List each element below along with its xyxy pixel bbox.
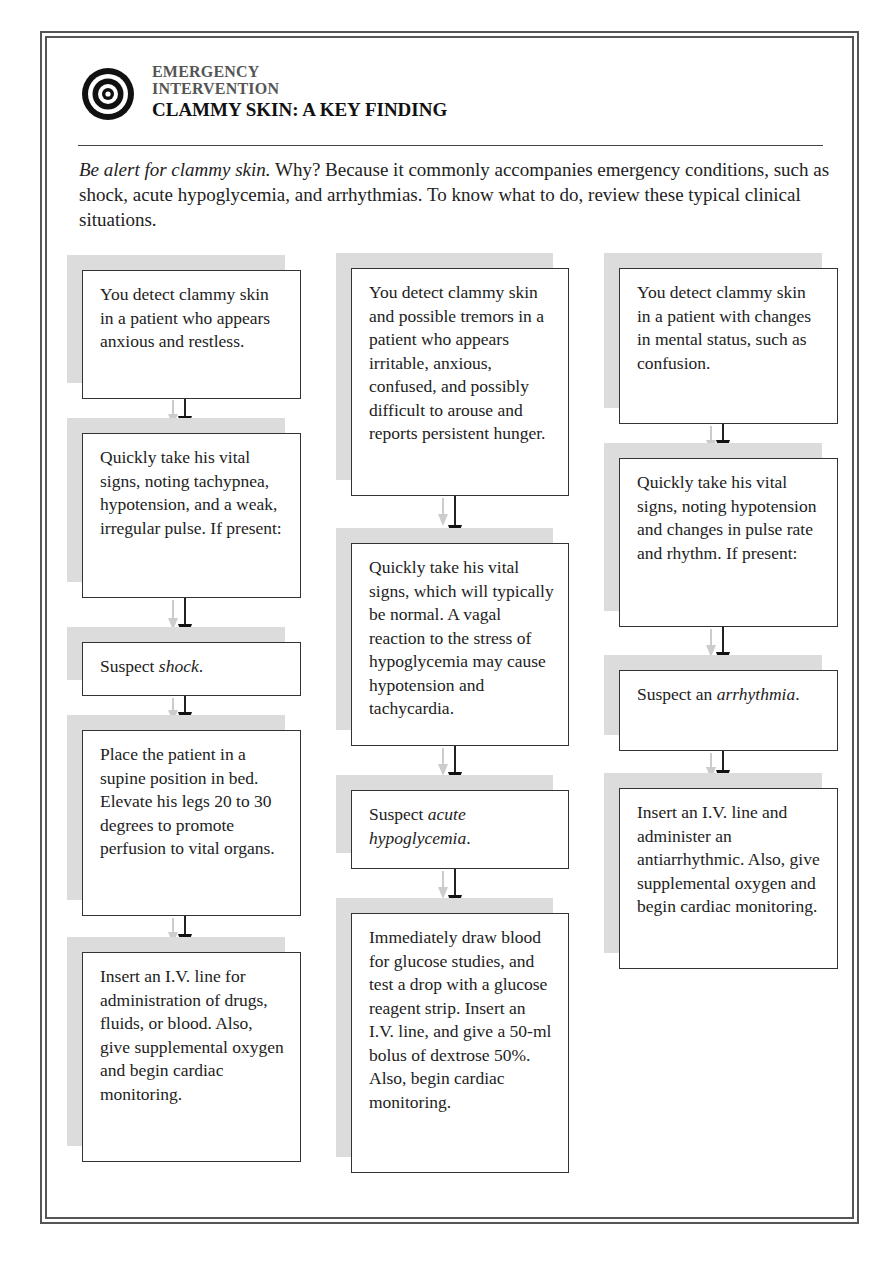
target-icon [80, 66, 136, 122]
flow-step: Immediately draw blood for glucose studi… [351, 913, 569, 1173]
ghost-arrow-icon [168, 600, 178, 630]
flow-step: You detect clammy skin in a patient with… [619, 268, 838, 424]
flow-step: Insert an I.V. line for administration o… [82, 952, 301, 1162]
flow-step: Place the patient in a supine position i… [82, 730, 301, 916]
flow-step: Quickly take his vital signs, which will… [351, 543, 569, 746]
flow-step: Insert an I.V. line and administer an an… [619, 788, 838, 969]
intro-lead: Be alert for clammy skin. [79, 159, 271, 180]
ghost-arrow-icon [438, 498, 448, 526]
flow-step: You detect clammy skin and possible trem… [351, 268, 569, 496]
page-title: CLAMMY SKIN: A KEY FINDING [152, 99, 447, 121]
section-label-line1: EMERGENCY [152, 63, 260, 81]
ghost-arrow-icon [438, 748, 448, 776]
intro-paragraph: Be alert for clammy skin. Why? Because i… [79, 157, 839, 232]
flow-step: Suspect an arrhythmia. [619, 670, 838, 751]
ghost-arrow-icon [438, 871, 448, 899]
flow-step: Quickly take his vital signs, noting hyp… [619, 458, 838, 627]
flow-step: Suspect acute hypoglycemia. [351, 790, 569, 869]
ghost-arrow-icon [706, 629, 716, 657]
flow-step: Suspect shock. [82, 642, 301, 696]
header-divider [78, 145, 823, 146]
flow-step: You detect clammy skin in a patient who … [82, 270, 301, 399]
flow-step: Quickly take his vital signs, noting tac… [82, 433, 301, 598]
section-label-line2: INTERVENTION [152, 80, 279, 98]
